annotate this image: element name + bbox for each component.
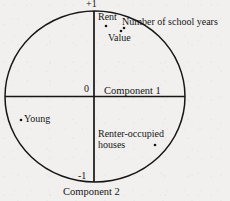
axis-tick-plus-one: +1: [86, 0, 97, 10]
point-label-value: Value: [108, 33, 131, 44]
axis-label-component-2: Component 2: [63, 186, 120, 197]
axis-tick-minus-one: -1: [78, 171, 86, 182]
point-label-rent: Rent: [98, 12, 117, 23]
point-rent: [105, 25, 108, 28]
axis-tick-origin: 0: [84, 84, 89, 95]
renter-label-line-2: houses: [98, 139, 125, 150]
plot-canvas: [0, 0, 230, 201]
renter-label-line-1: Renter-occupied: [98, 128, 164, 139]
axis-label-component-1: Component 1: [104, 85, 161, 96]
point-young: [20, 119, 23, 122]
point-label-young: Young: [24, 114, 50, 125]
point-label-renter-occupied-houses: Renter-occupied houses: [98, 129, 164, 150]
point-label-number-of-school-years: Number of school years: [122, 17, 218, 28]
pca-loading-plot: +1 -1 0 Component 1 Component 2 Rent Num…: [0, 0, 230, 201]
